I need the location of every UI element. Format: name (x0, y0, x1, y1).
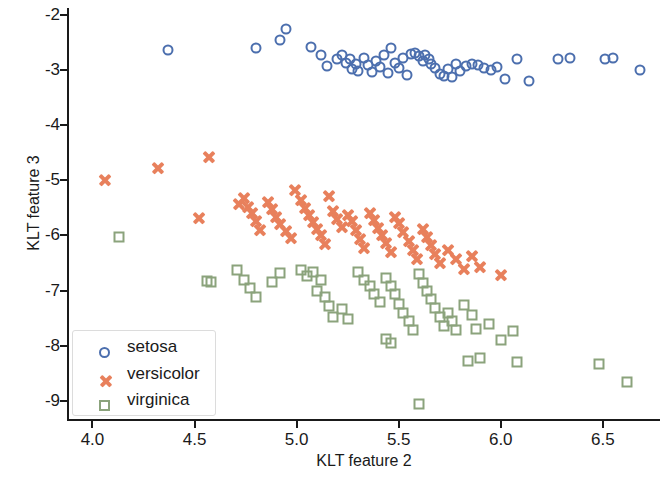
x-tick-label: 4.0 (62, 430, 122, 450)
data-point-versicolor (151, 161, 165, 175)
data-point-virginica (508, 326, 519, 337)
y-tick-label: -2 (20, 5, 60, 25)
data-point-versicolor (357, 241, 371, 255)
data-point-virginica (475, 352, 486, 363)
x-tick (398, 421, 400, 428)
x-axis-label: KLT feature 2 (68, 452, 660, 470)
y-tick (60, 14, 67, 16)
data-point-versicolor (410, 252, 424, 266)
data-point-setosa (552, 54, 563, 65)
data-point-setosa (305, 42, 316, 53)
y-axis-label: KLT feature 3 (25, 83, 43, 323)
y-tick-label: -3 (20, 60, 60, 80)
data-point-setosa (499, 74, 510, 85)
data-point-virginica (250, 292, 261, 303)
x-tick-label: 6.0 (471, 430, 531, 450)
data-point-virginica (463, 356, 474, 367)
legend: setosa versicolor virginica (72, 330, 216, 416)
data-point-virginica (467, 309, 478, 320)
x-tick (194, 421, 196, 428)
data-point-setosa (385, 43, 396, 54)
data-point-virginica (375, 296, 386, 307)
data-point-setosa (401, 69, 412, 80)
x-tick (500, 421, 502, 428)
data-point-virginica (324, 300, 335, 311)
legend-label-versicolor: versicolor (127, 364, 200, 384)
x-tick-label: 4.5 (165, 430, 225, 450)
data-point-versicolor (192, 211, 206, 225)
legend-label-virginica: virginica (127, 390, 189, 410)
y-tick-label: -9 (20, 391, 60, 411)
data-point-virginica (275, 267, 286, 278)
x-tick-label: 5.0 (267, 430, 327, 450)
y-tick (60, 345, 67, 347)
y-tick (60, 179, 67, 181)
x-tick-label: 5.5 (369, 430, 429, 450)
x-tick (602, 421, 604, 428)
versicolor-marker-icon (99, 374, 113, 388)
data-point-setosa (163, 44, 174, 55)
virginica-marker-icon (99, 400, 110, 411)
y-tick (60, 69, 67, 71)
data-point-versicolor (202, 150, 216, 164)
y-tick (60, 124, 67, 126)
data-point-virginica (407, 325, 418, 336)
data-point-setosa (634, 65, 645, 76)
data-point-virginica (114, 231, 125, 242)
legend-item-versicolor[interactable]: versicolor (73, 361, 215, 388)
data-point-virginica (471, 324, 482, 335)
data-point-setosa (281, 24, 292, 35)
legend-item-setosa[interactable]: setosa (73, 334, 215, 361)
data-point-setosa (491, 62, 502, 73)
data-point-setosa (524, 76, 535, 87)
data-point-virginica (483, 318, 494, 329)
data-point-versicolor (318, 237, 332, 251)
data-point-versicolor (284, 231, 298, 245)
data-point-virginica (414, 399, 425, 410)
data-point-setosa (250, 43, 261, 54)
data-point-versicolor (433, 256, 447, 270)
data-point-virginica (622, 376, 633, 387)
data-point-setosa (352, 65, 363, 76)
data-point-versicolor (384, 245, 398, 259)
y-tick-label: -8 (20, 336, 60, 356)
data-point-versicolor (457, 262, 471, 276)
data-point-virginica (512, 357, 523, 368)
data-point-versicolor (98, 173, 112, 187)
setosa-marker-icon (99, 347, 110, 358)
x-tick-label: 6.5 (573, 430, 633, 450)
legend-label-setosa: setosa (127, 337, 177, 357)
y-tick (60, 400, 67, 402)
data-point-setosa (512, 54, 523, 65)
data-point-virginica (450, 325, 461, 336)
data-point-setosa (565, 53, 576, 64)
data-point-setosa (316, 49, 327, 60)
data-point-virginica (205, 276, 216, 287)
data-point-virginica (593, 359, 604, 370)
data-point-setosa (322, 61, 333, 72)
x-tick (91, 421, 93, 428)
data-point-versicolor (322, 189, 336, 203)
data-point-virginica (495, 335, 506, 346)
data-point-versicolor (473, 260, 487, 274)
data-point-versicolor (253, 223, 267, 237)
y-tick (60, 290, 67, 292)
data-point-virginica (316, 274, 327, 285)
data-point-setosa (275, 35, 286, 46)
x-tick (296, 421, 298, 428)
data-point-virginica (342, 314, 353, 325)
data-point-virginica (385, 338, 396, 349)
y-tick (60, 234, 67, 236)
data-point-setosa (608, 53, 619, 64)
legend-item-virginica[interactable]: virginica (73, 387, 215, 414)
data-point-versicolor (494, 268, 508, 282)
scatter-plot-figure: 4.04.55.05.56.06.5 -2-3-4-5-6-7-8-9 KLT … (0, 0, 664, 479)
